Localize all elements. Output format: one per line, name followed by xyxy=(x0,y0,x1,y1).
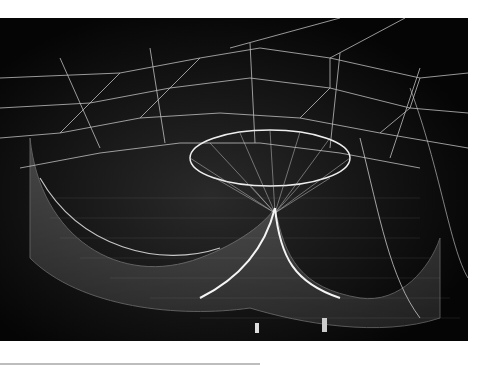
net-sculpture-illustration xyxy=(0,18,468,341)
net-sculpture-photo xyxy=(0,18,468,341)
